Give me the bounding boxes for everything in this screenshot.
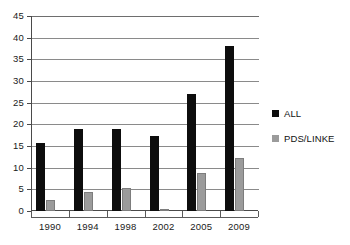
y-axis-tick-label: 30: [2, 75, 24, 86]
bar-all: [187, 94, 196, 211]
bar-group: [145, 16, 183, 211]
y-axis-tick-label: 10: [2, 162, 24, 173]
x-axis-separator: [258, 211, 259, 217]
bar-all: [36, 143, 45, 211]
bar-group: [220, 16, 258, 211]
bar-pds-linke: [197, 173, 206, 211]
x-axis-tick-label: 1998: [107, 221, 145, 232]
y-axis-tick-label: 45: [2, 10, 24, 21]
bar-group: [69, 16, 107, 211]
y-axis-tick-label: 5: [2, 183, 24, 194]
y-axis-tick-label: 15: [2, 140, 24, 151]
x-axis-tick-label: 2002: [145, 221, 183, 232]
y-axis-tick-label: 20: [2, 118, 24, 129]
legend-swatch-all-icon: [272, 110, 279, 117]
bar-group: [31, 16, 69, 211]
bar-pds-linke: [46, 200, 55, 211]
x-axis-line: [31, 217, 258, 218]
y-axis-tick-label: 25: [2, 97, 24, 108]
legend-label-pds-linke: PDS/LINKE: [284, 133, 335, 144]
bars-layer: [31, 16, 258, 211]
x-axis-tick-label: 1994: [69, 221, 107, 232]
y-axis-tick-label: 0: [2, 205, 24, 216]
legend-item-pds-linke: PDS/LINKE: [272, 133, 348, 144]
bar-pds-linke: [84, 192, 93, 211]
bar-group: [182, 16, 220, 211]
bar-chart: 051015202530354045 199019941998200220052…: [0, 0, 350, 245]
legend: ALL PDS/LINKE: [272, 108, 348, 158]
y-axis-tick-label: 40: [2, 32, 24, 43]
bar-pds-linke: [160, 209, 169, 211]
bar-all: [74, 129, 83, 211]
x-axis-tick-label: 1990: [31, 221, 69, 232]
bar-pds-linke: [122, 188, 131, 211]
bar-all: [150, 136, 159, 211]
bar-all: [112, 129, 121, 211]
bar-group: [107, 16, 145, 211]
x-axis-tick-label: 2009: [220, 221, 258, 232]
legend-label-all: ALL: [284, 108, 301, 119]
x-axis-labels: 199019941998200220052009: [31, 221, 258, 237]
x-axis-tick-label: 2005: [182, 221, 220, 232]
legend-item-all: ALL: [272, 108, 348, 119]
bar-all: [225, 46, 234, 211]
legend-swatch-pds-linke-icon: [272, 135, 279, 142]
bar-pds-linke: [235, 158, 244, 211]
y-axis-tick-label: 35: [2, 53, 24, 64]
